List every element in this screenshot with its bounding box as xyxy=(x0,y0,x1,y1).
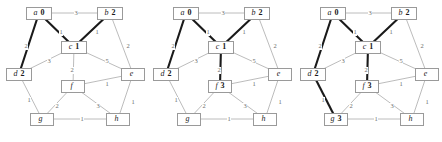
node-distance-label: 2 xyxy=(21,70,25,78)
edge-weight-label: 5 xyxy=(252,58,256,65)
node-distance-label: 3 xyxy=(338,115,342,123)
edge-weight-label: 2 xyxy=(171,43,175,50)
graph-node-h: h xyxy=(106,113,130,126)
graph-node-d: d2 xyxy=(153,68,179,81)
node-name: f xyxy=(70,82,72,90)
node-name: h xyxy=(262,115,266,123)
node-name: f xyxy=(215,82,217,90)
graph-node-c: c1 xyxy=(355,41,381,54)
node-distance-label: 0 xyxy=(335,9,339,17)
node-distance-label: 2 xyxy=(406,9,410,17)
node-name: h xyxy=(115,115,119,123)
node-distance-label: 3 xyxy=(221,82,225,90)
graph-node-d: d2 xyxy=(300,68,326,81)
graph-node-f: f xyxy=(61,80,85,93)
edge-weight-label: 1 xyxy=(278,99,282,106)
node-name: a xyxy=(181,9,185,17)
graph-panel: 31212352111231a0b2c1d2ef3gh xyxy=(147,0,295,142)
node-distance-label: 2 xyxy=(315,70,319,78)
node-distance-label: 1 xyxy=(75,43,79,51)
edge-weight-label: 2 xyxy=(364,67,368,74)
edge-weight-label: 3 xyxy=(221,10,225,17)
node-name: a xyxy=(328,9,332,17)
edge-weight-label: 2 xyxy=(420,43,424,50)
node-distance-label: 1 xyxy=(222,43,226,51)
edge-weight-label: 3 xyxy=(390,103,394,110)
graph-node-a: a0 xyxy=(26,7,52,20)
edge-weight-label: 2 xyxy=(349,103,353,110)
edge-weight-label: 3 xyxy=(194,58,198,65)
edge-weight-label: 1 xyxy=(174,97,178,104)
node-name: g xyxy=(186,115,190,123)
edge-weight-label: 3 xyxy=(368,10,372,17)
graph-node-e: e xyxy=(415,68,439,81)
edge-weight-label: 3 xyxy=(96,103,100,110)
edge-weight-label: 2 xyxy=(202,103,206,110)
node-name: b xyxy=(399,9,403,17)
graph-node-b: b2 xyxy=(391,7,417,20)
edge-weight-label: 2 xyxy=(273,43,277,50)
node-distance-label: 0 xyxy=(41,9,45,17)
edge-weight-label: 1 xyxy=(131,99,135,106)
edge-weight-label: 1 xyxy=(59,29,63,36)
node-name: e xyxy=(424,70,428,78)
node-name: g xyxy=(331,115,335,123)
edge-weight-label: 1 xyxy=(321,97,325,104)
graph-node-c: c1 xyxy=(61,41,87,54)
node-distance-label: 1 xyxy=(369,43,373,51)
graph-node-h: h xyxy=(253,113,277,126)
graph-node-e: e xyxy=(121,68,145,81)
graph-node-b: b2 xyxy=(97,7,123,20)
node-name: g xyxy=(39,115,43,123)
node-distance-label: 0 xyxy=(188,9,192,17)
edge-weight-label: 1 xyxy=(80,116,84,123)
graph-node-a: a0 xyxy=(320,7,346,20)
edge-weight-label: 1 xyxy=(353,29,357,36)
edge-weight-label: 2 xyxy=(55,103,59,110)
edge-weight-label: 2 xyxy=(70,67,74,74)
graph-edge-highlighted xyxy=(166,13,186,74)
edge-weight-label: 3 xyxy=(243,103,247,110)
edge-weight-label: 5 xyxy=(399,58,403,65)
node-name: d xyxy=(14,70,18,78)
dijkstra-progression-figure: 31212352111231a0b2c1d2efgh31212352111231… xyxy=(0,0,442,142)
node-distance-label: 3 xyxy=(368,82,372,90)
graph-node-d: d2 xyxy=(6,68,32,81)
graph-node-h: h xyxy=(400,113,424,126)
node-name: c xyxy=(363,43,367,51)
graph-node-c: c1 xyxy=(208,41,234,54)
edge-weight-label: 1 xyxy=(242,29,246,36)
edge-weight-label: 3 xyxy=(74,10,78,17)
edge-weight-label: 1 xyxy=(399,81,403,88)
edge-weight-label: 1 xyxy=(95,29,99,36)
graph-node-f: f3 xyxy=(208,80,232,93)
edge-weight-label: 1 xyxy=(105,81,109,88)
edge-weight-label: 1 xyxy=(227,116,231,123)
graph-panel: 31212352111231a0b2c1d2ef3g3h xyxy=(294,0,442,142)
edge-weight-label: 1 xyxy=(206,29,210,36)
node-name: d xyxy=(308,70,312,78)
node-name: c xyxy=(216,43,220,51)
graph-node-f: f3 xyxy=(355,80,379,93)
node-name: f xyxy=(362,82,364,90)
node-name: h xyxy=(409,115,413,123)
edge-weight-label: 1 xyxy=(252,81,256,88)
graph-node-g: g xyxy=(177,113,201,126)
edge-weight-label: 3 xyxy=(341,58,345,65)
graph-node-a: a0 xyxy=(173,7,199,20)
node-name: d xyxy=(161,70,165,78)
node-name: e xyxy=(130,70,134,78)
edge-weight-label: 5 xyxy=(105,58,109,65)
edge-weight-label: 1 xyxy=(27,97,31,104)
graph-panel: 31212352111231a0b2c1d2efgh xyxy=(0,0,148,142)
graph-node-g: g3 xyxy=(324,113,348,126)
node-name: a xyxy=(34,9,38,17)
node-distance-label: 2 xyxy=(259,9,263,17)
edge-weight-label: 2 xyxy=(217,67,221,74)
node-name: b xyxy=(105,9,109,17)
edge-weight-label: 2 xyxy=(318,43,322,50)
node-distance-label: 2 xyxy=(168,70,172,78)
edge-weight-label: 1 xyxy=(374,116,378,123)
node-name: b xyxy=(252,9,256,17)
edge-weight-label: 1 xyxy=(425,99,429,106)
